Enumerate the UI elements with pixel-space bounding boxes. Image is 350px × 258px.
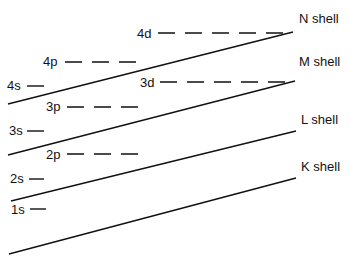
label-n-shell: N shell: [299, 12, 339, 25]
electron-shell-diagram: 4d 4p 4s 3d 3p 3s 2p 2s 1s N shell M she…: [0, 0, 350, 258]
label-3p: 3p: [46, 100, 60, 113]
label-l-shell: L shell: [301, 113, 338, 126]
label-4p: 4p: [43, 55, 57, 68]
label-k-shell: K shell: [301, 160, 340, 173]
label-3s: 3s: [9, 124, 23, 137]
k-shell-line: [9, 178, 296, 254]
label-1s: 1s: [11, 203, 25, 216]
label-m-shell: M shell: [299, 55, 340, 68]
label-4d: 4d: [137, 27, 151, 40]
m-shell-line: [8, 81, 295, 155]
l-shell-line: [11, 131, 296, 201]
label-2s: 2s: [10, 172, 24, 185]
label-3d: 3d: [140, 76, 154, 89]
label-4s: 4s: [7, 79, 21, 92]
diagram-lines: [0, 0, 350, 258]
label-2p: 2p: [46, 148, 60, 161]
